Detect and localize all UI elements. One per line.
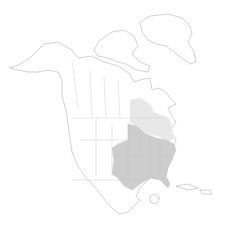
yucatan xyxy=(150,194,160,204)
range-map xyxy=(0,0,227,228)
cuba xyxy=(176,184,198,190)
hispaniola xyxy=(200,190,212,194)
landmass xyxy=(10,14,212,214)
greenland xyxy=(140,14,196,64)
